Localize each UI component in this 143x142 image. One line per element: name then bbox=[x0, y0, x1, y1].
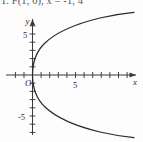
y-axis-label: y bbox=[25, 16, 30, 26]
y-tick-label-5: 5 bbox=[23, 30, 27, 40]
y-tick-label-minus-5: -5 bbox=[18, 112, 25, 122]
y-axis-arrow-icon bbox=[30, 19, 35, 26]
x-axis-label: x bbox=[132, 77, 137, 87]
figure-container: 1. F(1, 0), x = -1, 4 bbox=[0, 0, 143, 142]
origin-label: O bbox=[25, 78, 32, 88]
problem-caption: 1. F(1, 0), x = -1, 4 bbox=[1, 0, 83, 6]
x-tick-label-5: 5 bbox=[73, 80, 77, 90]
parabola-plot: y x O 5 -5 5 bbox=[0, 7, 143, 142]
parabola-lower-branch bbox=[33, 75, 135, 138]
parabola-upper-branch bbox=[33, 12, 135, 75]
coordinate-plane-svg: y x O 5 -5 5 bbox=[0, 7, 143, 142]
